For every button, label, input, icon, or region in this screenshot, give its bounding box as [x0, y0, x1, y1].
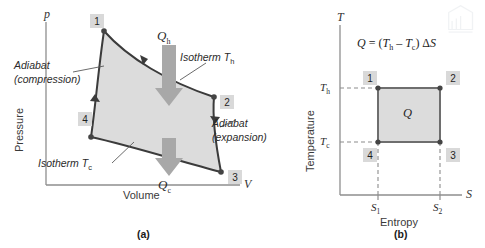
- b-vertex-3-dot: [437, 139, 442, 144]
- panel-b-state-2: 2: [446, 71, 460, 85]
- panel-a-caption: (a): [137, 229, 150, 240]
- panel-b-tick-s1: S1: [371, 202, 380, 216]
- panel-b-state-3: 3: [446, 148, 460, 162]
- panel-b-area-label: Q: [403, 107, 412, 120]
- heat-in-subscript: h: [166, 37, 170, 46]
- heat-out-subscript: c: [167, 186, 171, 195]
- panel-b-state-4: 4: [363, 148, 377, 162]
- vertex-1-dot: [101, 28, 107, 34]
- panel-a-x-axis-label: Volume: [123, 190, 160, 201]
- vertex-2-dot: [211, 94, 217, 100]
- panel-a-y-axis-label: Pressure: [14, 108, 25, 152]
- vertex-4-dot: [88, 134, 94, 140]
- isotherm-cold-subscript: c: [88, 163, 92, 172]
- panel-b-y-axis-symbol: T: [337, 11, 344, 23]
- panel-b-caption: (b): [394, 229, 407, 240]
- b-vertex-2-dot: [437, 85, 442, 90]
- panel-a-state-4: 4: [78, 112, 92, 126]
- isotherm-cold-text: Isotherm T: [38, 157, 88, 169]
- equation-eq: = (: [366, 36, 383, 50]
- adiabat-compression-line1: Adiabat: [14, 60, 81, 71]
- equation-close: ) Δ: [415, 36, 430, 50]
- carnot-cycle-figure: p Pressure V Volume 1 2 3 4 Qh Qc Adiaba…: [0, 0, 485, 248]
- annotation-adiabat-compression: Adiabat (compression): [14, 60, 81, 84]
- panel-b-x-axis-symbol: S: [466, 188, 472, 200]
- tick-s1-sub: 1: [377, 207, 381, 216]
- panel-b-tick-s2: S2: [433, 202, 442, 216]
- adiabat-compression-line2: (compression): [14, 74, 81, 85]
- panel-b-state-1: 1: [363, 71, 377, 85]
- equation-minus: –: [393, 36, 405, 50]
- heat-in-label: Qh: [157, 29, 170, 46]
- panel-b-equation: Q = (Th – Tc) ΔS: [357, 37, 436, 52]
- panel-a-x-axis-symbol: V: [244, 178, 251, 190]
- isotherm-hot-subscript: h: [230, 57, 234, 66]
- vertex-3-dot: [218, 169, 224, 175]
- b-vertex-1-dot: [375, 85, 380, 90]
- panel-a-state-2: 2: [220, 95, 234, 109]
- adiabat-expansion-line1: Adiabat: [212, 118, 267, 129]
- adiabat-expansion-line2: (expansion): [212, 132, 267, 143]
- annotation-isotherm-hot: Isotherm Th: [180, 52, 234, 66]
- tick-s2-sub: 2: [439, 207, 443, 216]
- equation-q: Q: [357, 36, 366, 50]
- panel-a-state-1: 1: [90, 14, 104, 28]
- heat-out-symbol: Q: [158, 177, 167, 192]
- heat-out-label: Qc: [158, 178, 171, 195]
- panel-b-tick-th: Th: [320, 82, 330, 96]
- equation-tc: T: [405, 36, 412, 50]
- tick-th-sub: h: [326, 87, 330, 96]
- tick-tc-sub: c: [326, 141, 329, 150]
- annotation-isotherm-cold: Isotherm Tc: [38, 158, 92, 172]
- book-page-icon: [449, 6, 473, 32]
- panel-b-x-axis-label: Entropy: [380, 217, 418, 228]
- panel-b-tick-tc: Tc: [320, 136, 329, 150]
- isotherm-hot-text: Isotherm T: [180, 51, 230, 63]
- equation-s: S: [430, 36, 436, 50]
- b-vertex-4-dot: [375, 139, 380, 144]
- panel-a-state-3: 3: [228, 170, 242, 184]
- panel-b-y-axis-label: Temperature: [305, 110, 316, 172]
- panel-a-y-axis-symbol: p: [44, 8, 50, 20]
- heat-in-symbol: Q: [157, 28, 166, 43]
- annotation-adiabat-expansion: Adiabat (expansion): [212, 118, 267, 142]
